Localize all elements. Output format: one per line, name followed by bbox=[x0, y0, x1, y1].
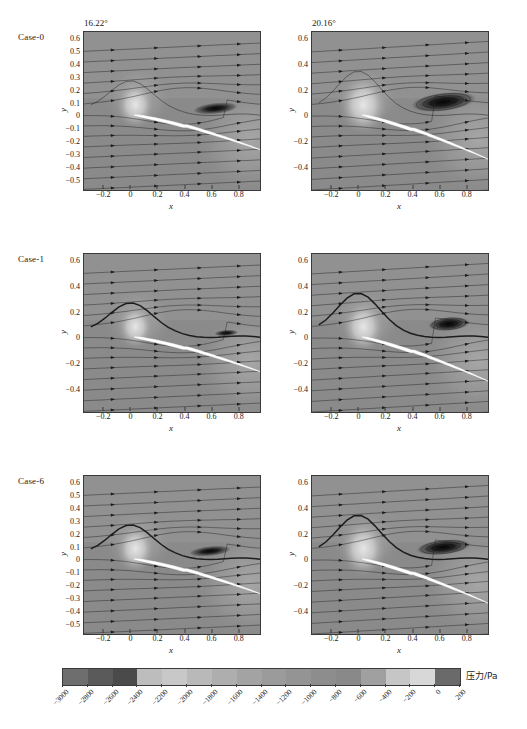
x-tick-mark bbox=[157, 185, 158, 189]
y-tick-label: 0 bbox=[76, 334, 80, 342]
panel-case1-16: y 0.60.40.20−0.2−0.4 −0.200.20.40.60.8 x bbox=[60, 240, 265, 445]
colorbar-tick-label: −2200 bbox=[151, 688, 170, 707]
x-tick-label: 0.6 bbox=[207, 412, 217, 422]
colorbar-band bbox=[410, 669, 435, 685]
x-tick-label: 0 bbox=[356, 634, 360, 644]
y-tick-label: 0 bbox=[304, 556, 308, 564]
x-tick-label: 0.8 bbox=[234, 190, 244, 200]
x-tick-mark bbox=[238, 407, 239, 411]
x-tick-mark bbox=[238, 629, 239, 633]
colorbar-tick-label: −1600 bbox=[225, 688, 244, 707]
y-tick-labels: 0.60.40.20−0.2−0.4 bbox=[60, 253, 80, 411]
stagnation-pressure-halo bbox=[115, 80, 155, 130]
x-tick-mark bbox=[211, 629, 212, 633]
x-tick-mark bbox=[466, 407, 467, 411]
y-tick-labels: 0.60.40.20−0.2−0.4 bbox=[288, 253, 308, 411]
colorbar-tick-label: −2400 bbox=[126, 688, 145, 707]
y-tick-label: 0.2 bbox=[298, 531, 308, 539]
y-tick-label: −0.3 bbox=[65, 595, 80, 603]
x-tick-mark bbox=[358, 185, 359, 189]
x-tick-label: −0.2 bbox=[324, 190, 339, 200]
panel-case6-16: y 0.60.50.40.30.20.10−0.1−0.2−0.3−0.4−0.… bbox=[60, 462, 265, 667]
y-tick-label: 0.2 bbox=[70, 531, 80, 539]
x-tick-label: 0.8 bbox=[462, 634, 472, 644]
colorbar-tick-label: −2600 bbox=[101, 688, 120, 707]
colorbar-tick-label: −2800 bbox=[76, 688, 95, 707]
colorbar-band bbox=[187, 669, 212, 685]
x-tick-label: 0 bbox=[356, 412, 360, 422]
colorbar-tick-mark bbox=[434, 684, 435, 687]
y-tick-label: −0.4 bbox=[293, 608, 308, 616]
stagnation-pressure-halo bbox=[340, 520, 387, 578]
colorbar-band bbox=[212, 669, 237, 685]
x-tick-mark bbox=[439, 407, 440, 411]
y-tick-label: 0.1 bbox=[70, 544, 80, 552]
y-tick-label: 0.5 bbox=[70, 492, 80, 500]
colorbar-tick-label: 200 bbox=[454, 688, 468, 702]
y-tick-label: −0.2 bbox=[293, 360, 308, 368]
stagnation-pressure-halo bbox=[117, 304, 154, 350]
colorbar-band bbox=[286, 669, 311, 685]
x-tick-mark bbox=[358, 629, 359, 633]
x-tick-label: 0.4 bbox=[408, 412, 418, 422]
colorbar-tick-mark bbox=[335, 684, 336, 687]
y-tick-label: 0 bbox=[304, 112, 308, 120]
x-tick-label: 0.6 bbox=[435, 412, 445, 422]
colorbar-gradient bbox=[62, 668, 461, 686]
y-tick-label: −0.4 bbox=[293, 386, 308, 394]
x-tick-label: 0.2 bbox=[380, 412, 390, 422]
colorbar-band bbox=[336, 669, 361, 685]
x-tick-mark bbox=[385, 185, 386, 189]
figure-row: Case-6 y 0.60.50.40.30.20.10−0.1−0.2−0.3… bbox=[0, 462, 527, 667]
y-tick-label: 0.1 bbox=[70, 100, 80, 108]
x-tick-mark bbox=[211, 407, 212, 411]
x-tick-label: 0.4 bbox=[408, 190, 418, 200]
pressure-contour-svg bbox=[312, 254, 488, 412]
colorbar-tick-label: −1000 bbox=[300, 688, 319, 707]
figure-row: Case-1 y 0.60.40.20−0.2−0.4 −0.200.20.40… bbox=[0, 240, 527, 445]
x-tick-mark bbox=[466, 185, 467, 189]
y-tick-label: 0.6 bbox=[70, 479, 80, 487]
x-tick-label: 0 bbox=[128, 634, 132, 644]
stagnation-pressure-halo bbox=[115, 524, 155, 574]
colorbar-band bbox=[361, 669, 386, 685]
colorbar-tick-mark bbox=[112, 684, 113, 687]
contour-plot-area bbox=[83, 475, 261, 635]
panel-case0-16: 16.22° y 0.60.50.40.30.20.10−0.1−0.2−0.3… bbox=[60, 18, 265, 223]
contour-plot-area bbox=[83, 253, 261, 413]
colorbar-tick-mark bbox=[211, 684, 212, 687]
x-tick-label: 0.6 bbox=[435, 634, 445, 644]
y-tick-label: 0.4 bbox=[298, 283, 308, 291]
x-tick-mark bbox=[331, 185, 332, 189]
x-axis-label: x bbox=[83, 201, 259, 211]
x-tick-mark bbox=[412, 185, 413, 189]
colorbar-tick-mark bbox=[261, 684, 262, 687]
colorbar-tick-mark bbox=[87, 684, 88, 687]
x-tick-mark bbox=[439, 185, 440, 189]
y-tick-label: 0 bbox=[76, 556, 80, 564]
x-tick-label: 0.2 bbox=[152, 634, 162, 644]
y-tick-label: 0 bbox=[76, 112, 80, 120]
x-tick-mark bbox=[439, 629, 440, 633]
panel-title: 16.22° bbox=[84, 18, 108, 28]
y-tick-label: 0.6 bbox=[70, 35, 80, 43]
x-tick-label: 0.6 bbox=[435, 190, 445, 200]
y-tick-label: −0.5 bbox=[65, 177, 80, 185]
y-tick-label: 0.4 bbox=[70, 61, 80, 69]
y-tick-label: −0.1 bbox=[65, 125, 80, 133]
case-label: Case-0 bbox=[18, 32, 44, 42]
y-tick-labels: 0.60.40.20−0.2−0.4 bbox=[288, 31, 308, 189]
y-tick-label: −0.2 bbox=[65, 138, 80, 146]
x-tick-mark bbox=[211, 185, 212, 189]
y-tick-label: −0.2 bbox=[293, 138, 308, 146]
x-tick-label: 0.4 bbox=[408, 634, 418, 644]
pressure-contour-svg bbox=[84, 254, 260, 412]
case-label: Case-6 bbox=[18, 476, 44, 486]
colorbar-tick-mark bbox=[459, 684, 460, 687]
colorbar-tick-label: −800 bbox=[327, 688, 344, 705]
x-tick-label: 0.6 bbox=[207, 634, 217, 644]
y-tick-label: −0.4 bbox=[65, 608, 80, 616]
colorbar-tick-label: −200 bbox=[401, 688, 418, 705]
case-label: Case-1 bbox=[18, 254, 44, 264]
y-tick-label: −0.2 bbox=[65, 582, 80, 590]
